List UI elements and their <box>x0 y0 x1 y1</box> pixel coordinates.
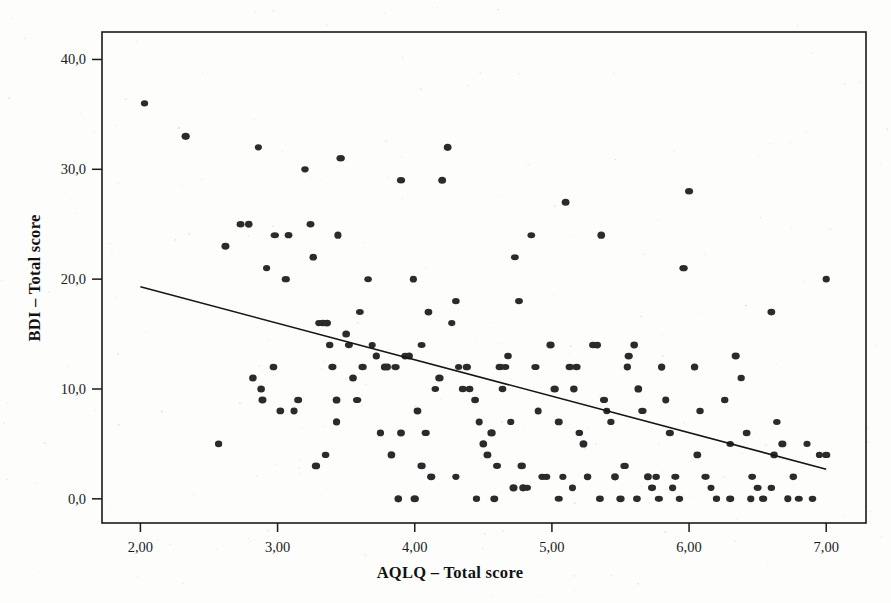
data-point <box>438 177 446 184</box>
data-point <box>309 254 317 261</box>
marker <box>511 254 519 260</box>
speckle <box>365 384 366 385</box>
speckle <box>53 307 54 308</box>
data-point <box>630 342 638 349</box>
marker <box>573 364 581 371</box>
data-point <box>555 419 563 426</box>
speckle <box>589 297 590 298</box>
marker <box>738 375 745 381</box>
marker <box>397 177 405 184</box>
marker <box>633 496 641 503</box>
marker <box>803 441 810 447</box>
marker <box>418 342 426 348</box>
speckle <box>797 25 798 27</box>
data-point <box>523 485 531 491</box>
speckle <box>804 281 805 282</box>
speckle <box>476 339 477 340</box>
speckle <box>1 280 3 281</box>
figure-background <box>0 0 891 603</box>
speckle <box>401 157 403 158</box>
data-point <box>633 496 641 503</box>
data-point <box>221 243 229 250</box>
data-point <box>490 495 498 502</box>
plot-canvas: 2,003,004,005,006,007,00 0,010,020,030,0… <box>0 0 891 603</box>
speckle <box>420 89 422 90</box>
data-point <box>616 495 624 502</box>
marker <box>414 408 422 415</box>
marker <box>638 408 646 414</box>
data-point <box>747 495 754 502</box>
speckle <box>876 346 878 347</box>
speckle <box>48 291 49 293</box>
data-point <box>550 385 558 392</box>
speckle <box>776 364 777 365</box>
marker <box>476 418 483 425</box>
marker <box>691 363 698 370</box>
speckle <box>102 594 103 595</box>
speckle <box>364 242 365 243</box>
data-point <box>476 418 483 425</box>
data-point <box>364 276 372 282</box>
speckle <box>424 268 425 269</box>
speckle <box>599 396 601 397</box>
y-tick-label: 20,0 <box>61 271 86 287</box>
speckle <box>155 374 156 375</box>
marker <box>666 430 674 437</box>
data-point <box>648 485 656 492</box>
speckle <box>684 422 685 423</box>
marker <box>455 364 462 370</box>
data-point <box>597 232 605 239</box>
marker <box>721 397 728 404</box>
data-point <box>569 484 576 491</box>
speckle <box>723 476 725 477</box>
marker <box>373 352 380 359</box>
data-point <box>373 352 380 359</box>
data-point <box>479 440 487 447</box>
x-tick-label: 2,00 <box>128 539 153 555</box>
marker <box>773 419 781 425</box>
speckle <box>636 257 637 258</box>
speckle <box>310 177 311 178</box>
data-point <box>336 155 344 161</box>
marker <box>616 495 624 502</box>
marker <box>388 451 396 458</box>
speckle <box>384 13 386 15</box>
data-point <box>501 364 509 370</box>
speckle <box>888 111 890 112</box>
data-point <box>652 474 660 480</box>
speckle <box>125 131 126 132</box>
speckle <box>191 53 193 54</box>
speckle <box>576 400 578 402</box>
data-point <box>576 430 584 436</box>
speckle <box>322 426 324 427</box>
speckle <box>298 467 300 469</box>
marker <box>364 276 372 282</box>
speckle <box>193 493 194 494</box>
marker <box>555 419 563 426</box>
marker <box>795 496 803 502</box>
speckle <box>769 143 771 144</box>
data-point <box>448 320 455 326</box>
speckle <box>256 476 257 477</box>
marker <box>411 495 419 502</box>
data-point <box>504 353 512 360</box>
marker <box>312 462 320 469</box>
speckle <box>540 595 542 596</box>
speckle <box>613 73 614 74</box>
speckle <box>272 360 273 361</box>
marker <box>562 199 570 206</box>
marker <box>644 473 652 480</box>
speckle <box>273 10 275 11</box>
x-tick-label: 5,00 <box>539 539 564 555</box>
speckle <box>662 355 664 356</box>
speckle <box>364 555 366 556</box>
speckle <box>509 51 510 52</box>
marker <box>767 309 775 316</box>
data-point <box>435 374 443 381</box>
speckle <box>80 113 81 115</box>
speckle <box>367 201 368 202</box>
marker <box>732 353 740 360</box>
speckle <box>67 366 69 367</box>
data-point <box>263 265 270 271</box>
data-point <box>414 408 422 415</box>
